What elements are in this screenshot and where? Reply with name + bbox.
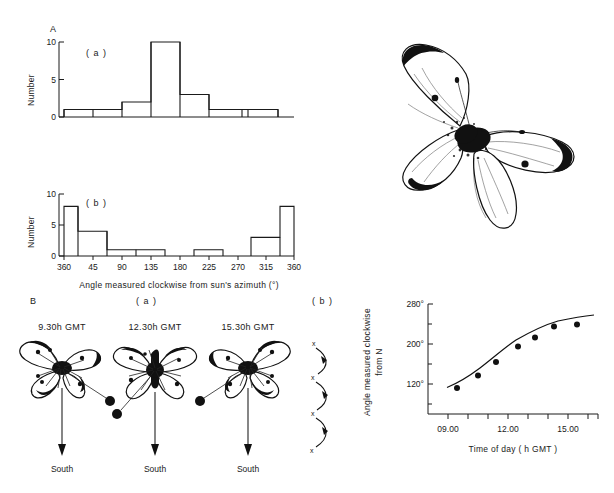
chart-xtick-1200: 12.00 xyxy=(497,424,519,434)
orientation-time-2: 15.30h GMT xyxy=(221,322,274,332)
data-point-6 xyxy=(574,322,580,328)
histogram-a-ytick-5: 5 xyxy=(51,75,56,85)
xtick-135: 135 xyxy=(144,262,158,272)
flight-marker-3: x xyxy=(310,447,314,454)
histogram-b-ytick-0: 0 xyxy=(51,251,56,261)
histogram-b: ( b ) Number 10 5 0 xyxy=(26,189,294,261)
histogram-b-bar-dividers xyxy=(78,206,280,256)
sun-disc-1 xyxy=(112,409,122,419)
panel-b-orientation: B ( a ) ( b ) 9.30h GMT xyxy=(8,290,348,490)
xtick-360a: 360 xyxy=(57,262,71,272)
orientation-diagram-0: 9.30h GMT xyxy=(20,322,115,474)
butterfly-illustration xyxy=(402,44,574,228)
histogram-a-yticks xyxy=(59,42,64,117)
histogram-b-sublabel: ( b ) xyxy=(86,198,107,208)
butterfly-photo xyxy=(382,18,612,248)
data-point-0 xyxy=(454,385,460,391)
chart-data-points xyxy=(454,322,580,392)
flight-path-diagram: x x x x xyxy=(310,340,328,454)
chart-yticks xyxy=(428,304,433,404)
azimuth-time-chart: Angle measured clockwise from N 280° 200… xyxy=(358,292,608,482)
flight-marker-1: x xyxy=(311,374,315,381)
chart-ylabel-line1: Angle measured clockwise xyxy=(362,308,372,416)
histogram-a-ytick-10: 10 xyxy=(47,37,57,47)
chart-fit-curve xyxy=(447,315,594,388)
south-label-1: South xyxy=(144,464,166,474)
xtick-270: 270 xyxy=(231,262,245,272)
chart-xticks xyxy=(448,414,598,419)
xtick-360b: 360 xyxy=(287,262,301,272)
orientation-time-0: 9.30h GMT xyxy=(38,322,86,332)
chart-ylabel-line2: from N xyxy=(374,348,384,375)
histogram-b-yticks xyxy=(59,194,64,256)
panel-b-sublabel-a: ( a ) xyxy=(136,296,157,306)
figure-root: A ( a ) Number 10 5 0 ( b ) Number 10 5 … xyxy=(0,0,614,493)
histogram-a-ytick-0: 0 xyxy=(51,112,56,122)
xtick-180: 180 xyxy=(173,262,187,272)
histogram-b-bars xyxy=(64,206,294,256)
histogram-b-xlabel: Angle measured clockwise from sun's azim… xyxy=(79,280,279,290)
xtick-90: 90 xyxy=(117,262,127,272)
histogram-b-ytick-10: 10 xyxy=(47,189,57,199)
histogram-b-xticks xyxy=(64,256,294,260)
chart-xtick-1500: 15.00 xyxy=(557,424,579,434)
data-point-1 xyxy=(475,373,481,379)
histogram-a-ylabel: Number xyxy=(26,74,36,106)
orientation-diagram-2: 15.30h GMT xyxy=(195,322,290,474)
data-point-4 xyxy=(532,335,538,341)
data-point-3 xyxy=(515,344,521,350)
histogram-b-ylabel: Number xyxy=(26,216,36,248)
panel-b-letter: B xyxy=(30,296,36,306)
chart-ytick-200: 200° xyxy=(406,339,424,349)
south-label-0: South xyxy=(51,464,73,474)
histogram-b-ytick-5: 5 xyxy=(51,220,56,230)
orientation-diagram-1: 12.30h GMT South xyxy=(112,322,197,474)
orientation-time-1: 12.30h GMT xyxy=(128,322,181,332)
chart-ytick-280: 280° xyxy=(406,299,424,309)
xtick-315: 315 xyxy=(259,262,273,272)
flight-marker-0: x xyxy=(312,340,316,347)
sun-disc-2 xyxy=(195,396,205,406)
south-label-2: South xyxy=(237,464,259,474)
data-point-5 xyxy=(551,324,557,330)
chart-xtick-0900: 09.00 xyxy=(437,424,459,434)
sun-disc-0 xyxy=(105,396,115,406)
data-point-2 xyxy=(493,359,499,365)
flight-marker-2: x xyxy=(311,410,315,417)
panel-b-sublabel-b: ( b ) xyxy=(312,296,333,306)
chart-ytick-120: 120° xyxy=(406,379,424,389)
xtick-45: 45 xyxy=(88,262,98,272)
histogram-a: ( a ) Number 10 5 0 xyxy=(26,37,294,122)
chart-xlabel: Time of day ( h GMT ) xyxy=(469,444,558,454)
xtick-225: 225 xyxy=(202,262,216,272)
panel-a-letter: A xyxy=(50,24,56,34)
histogram-b-xtick-labels: 360 45 90 135 180 225 270 315 360 xyxy=(57,262,301,272)
panel-a-histograms: A ( a ) Number 10 5 0 ( b ) Number 10 5 … xyxy=(8,14,328,299)
histogram-a-sublabel: ( a ) xyxy=(86,48,107,58)
